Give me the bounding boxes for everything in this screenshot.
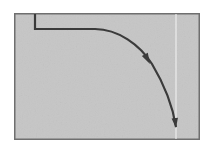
figure-canvas bbox=[0, 0, 213, 150]
figure-root bbox=[0, 0, 213, 150]
panel-grain bbox=[14, 13, 200, 140]
bordered-panel bbox=[14, 13, 200, 140]
